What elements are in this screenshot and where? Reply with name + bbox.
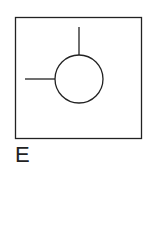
circle-shape	[55, 55, 103, 103]
figure-label: E	[15, 143, 30, 167]
